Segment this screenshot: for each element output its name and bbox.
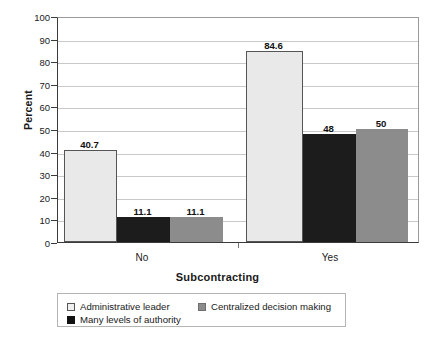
- y-tick-label-10: 10: [0, 215, 50, 226]
- bar-value-no-many-levels-of-authority: 11.1: [133, 206, 151, 217]
- bar-yes-administrative-leader: [246, 51, 303, 242]
- legend-swatch-icon-administrative-leader: [67, 303, 75, 311]
- bar-value-yes-many-levels-of-authority: 48: [323, 123, 334, 134]
- y-tick-label-50: 50: [0, 125, 50, 136]
- gridline-60: [58, 108, 418, 109]
- bar-value-yes-centralized-decision-making: 50: [376, 118, 387, 129]
- bar-no-administrative-leader: [64, 150, 117, 242]
- bar-yes-centralized-decision-making: [356, 129, 408, 242]
- bar-chart-figure: Percent 100 90 80 70 60 50 40 30 20 10 0: [0, 0, 435, 343]
- bar-no-many-levels-of-authority: [117, 217, 170, 242]
- bar-value-yes-administrative-leader: 84.6: [264, 40, 283, 51]
- bar-value-no-centralized-decision-making: 11.1: [186, 206, 204, 217]
- y-tick-label-60: 60: [0, 102, 50, 113]
- x-category-label-yes: Yes: [322, 252, 338, 263]
- gridline-70: [58, 86, 418, 87]
- y-tick-label-40: 40: [0, 147, 50, 158]
- legend-label-many-levels-of-authority: Many levels of authority: [80, 314, 181, 325]
- y-tick-label-70: 70: [0, 79, 50, 90]
- y-tick-label-90: 90: [0, 34, 50, 45]
- x-tick-mark-center: [238, 243, 239, 248]
- plot-area: [57, 17, 419, 243]
- x-axis-title: Subcontracting: [0, 271, 435, 283]
- gridline-90: [58, 41, 418, 42]
- bar-no-centralized-decision-making: [170, 217, 223, 242]
- y-tick-label-80: 80: [0, 57, 50, 68]
- bar-yes-many-levels-of-authority: [303, 134, 356, 243]
- legend-item-administrative-leader: Administrative leader: [67, 301, 170, 312]
- y-tick-mark-0: [51, 243, 57, 244]
- chart-legend: Administrative leader Many levels of aut…: [57, 293, 346, 327]
- y-tick-label-30: 30: [0, 170, 50, 181]
- legend-swatch-icon-centralized-decision-making: [198, 303, 206, 311]
- legend-label-administrative-leader: Administrative leader: [80, 301, 170, 312]
- legend-swatch-icon-many-levels-of-authority: [67, 316, 75, 324]
- gridline-80: [58, 63, 418, 64]
- y-tick-label-100: 100: [0, 12, 50, 23]
- y-tick-label-20: 20: [0, 192, 50, 203]
- x-category-label-no: No: [136, 252, 149, 263]
- legend-item-many-levels-of-authority: Many levels of authority: [67, 314, 181, 325]
- bar-value-no-administrative-leader: 40.7: [80, 139, 99, 150]
- legend-item-centralized-decision-making: Centralized decision making: [198, 301, 331, 312]
- legend-label-centralized-decision-making: Centralized decision making: [211, 301, 331, 312]
- y-tick-label-0: 0: [0, 238, 50, 249]
